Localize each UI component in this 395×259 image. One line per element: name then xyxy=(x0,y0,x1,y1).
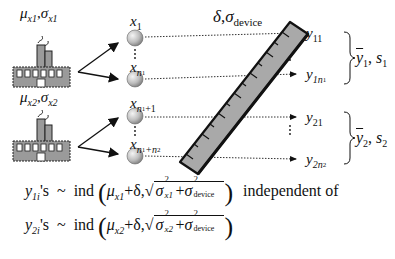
tilde-symbol: ~ xyxy=(57,182,66,199)
measurement-label-y11: y11 xyxy=(306,26,322,44)
x-subscript: 1 xyxy=(137,21,142,32)
measurement-label-y1n1: y1n1 xyxy=(306,67,326,85)
mu-symbol: μ xyxy=(20,89,28,105)
independent-of-text: independent of xyxy=(243,182,339,199)
sample-label-xn1plusn2: xn1+n2 xyxy=(130,137,160,155)
y-subscript: 1i xyxy=(32,191,40,202)
x-symbol: x xyxy=(130,136,137,152)
sigma-subscript: x2 xyxy=(48,97,57,108)
sigma-subscript: x1 xyxy=(48,13,57,24)
sigma-symbol: σ xyxy=(225,7,233,26)
y-symbol: y xyxy=(306,66,313,82)
factory-1-params: μx1,σx1 xyxy=(20,6,58,24)
tilde-symbol: ~ xyxy=(57,216,66,233)
sigma-x-squared: σ2x1 xyxy=(156,182,164,199)
plus-delta: +δ, xyxy=(124,182,145,199)
y-subscript: 2n xyxy=(313,159,323,170)
y-subsubscript: 2 xyxy=(323,161,327,169)
summary-group-1: y1, s1 xyxy=(356,50,387,69)
sigma-device-squared: σ2device xyxy=(185,182,193,199)
s-subscript: 1 xyxy=(382,58,387,69)
factory-1-icon xyxy=(13,36,70,87)
sample-label-xn1plus1: xn1+1 xyxy=(130,96,156,114)
x-symbol: x xyxy=(130,13,137,29)
measurement-label-y21: y21 xyxy=(306,110,323,128)
ind-operator: ind xyxy=(74,216,94,233)
sigma-device-squared: σ2device xyxy=(185,216,193,233)
y-symbol: y xyxy=(306,109,313,125)
sample-label-xn1: xn1 xyxy=(130,60,145,78)
y-subscript: 2i xyxy=(32,225,40,236)
s-subscript: 2 xyxy=(382,138,387,149)
mu-symbol: μ xyxy=(20,5,28,21)
y-subscript: 11 xyxy=(313,33,323,44)
measurement-label-y2n2: y2n2 xyxy=(306,152,326,170)
y-subscript: 21 xyxy=(313,117,323,128)
mu-subscript: x1 xyxy=(115,191,124,202)
plural-suffix: 's xyxy=(40,182,49,199)
group-braces xyxy=(344,32,355,164)
sample-label-x1: x1 xyxy=(130,14,142,32)
sqrt-radicand: σ2x1+σ2device xyxy=(154,181,225,199)
y-subsubscript: 1 xyxy=(323,76,327,84)
ind-operator: ind xyxy=(74,182,94,199)
sampling-arrows xyxy=(78,43,118,154)
y-subscript: 1n xyxy=(313,74,323,85)
formula-group-2: y2i's ~ ind (μx2+δ,√σ2x2+σ2device) xyxy=(25,214,233,240)
x-symbol: x xyxy=(130,95,137,111)
mu-symbol: μ xyxy=(107,216,115,233)
ruler-device-icon xyxy=(180,22,308,174)
y-symbol: y xyxy=(306,151,313,167)
mu-subscript: x1 xyxy=(28,13,37,24)
device-subscript: device xyxy=(234,16,263,28)
mu-subscript: x2 xyxy=(115,225,124,236)
plus-delta: +δ, xyxy=(124,216,145,233)
x-extra: +1 xyxy=(145,103,156,114)
delta-symbol: δ xyxy=(213,7,221,26)
summary-group-2: y2, s2 xyxy=(356,130,387,149)
sigma-x-squared: σ2x2 xyxy=(156,216,164,233)
device-params-label: δ,σdevice xyxy=(213,8,262,28)
formula-group-1: y1i's ~ ind (μx1+δ,√σ2x1+σ2device) indep… xyxy=(25,180,339,206)
mu-symbol: μ xyxy=(107,182,115,199)
plural-suffix: 's xyxy=(40,216,49,233)
x-extra-sub: 2 xyxy=(157,146,161,154)
y-symbol: y xyxy=(306,25,313,41)
x-subsubscript: 1 xyxy=(142,69,146,77)
mu-subscript: x2 xyxy=(28,97,37,108)
factory-2-params: μx2,σx2 xyxy=(20,90,58,108)
sqrt-radicand: σ2x2+σ2device xyxy=(154,215,225,233)
factory-2-icon xyxy=(13,110,70,161)
x-extra: +n xyxy=(145,144,157,155)
x-symbol: x xyxy=(130,59,137,75)
